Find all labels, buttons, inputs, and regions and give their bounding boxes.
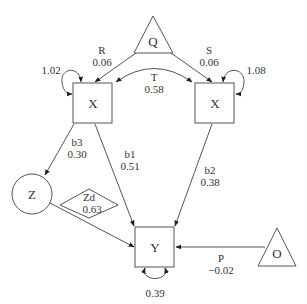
self-loop-x-left-value: 1.02 — [41, 64, 60, 76]
node-zd-value: 0.63 — [82, 203, 102, 215]
path-diagram: Q X X Z Zd 0.63 Y O R 0.06 S 0.06 T 0.58… — [0, 0, 307, 304]
node-o-label: O — [272, 246, 281, 261]
edge-b1-label: b1 — [125, 148, 136, 160]
node-x-right-label: X — [210, 96, 220, 111]
edge-b3-value: 0.30 — [67, 148, 87, 160]
edge-b2-label: b2 — [205, 164, 216, 176]
edge-b3-label: b3 — [72, 136, 84, 148]
edge-s-label: S — [206, 44, 212, 56]
edge-r-value: 0.06 — [92, 56, 112, 68]
edge-p-value: −0.02 — [208, 264, 233, 276]
node-x-left-label: X — [88, 96, 98, 111]
edge-s-value: 0.06 — [199, 56, 219, 68]
edge-b1-value: 0.51 — [120, 160, 139, 172]
edge-t-label: T — [151, 71, 158, 83]
node-z-label: Z — [28, 187, 36, 202]
self-loop-x-right-value: 1.08 — [246, 64, 266, 76]
self-loop-y — [144, 268, 165, 279]
edge-p-label: P — [218, 252, 224, 264]
edge-t-value: 0.58 — [144, 83, 164, 95]
edge-r-label: R — [98, 44, 106, 56]
node-y-label: Y — [150, 240, 160, 255]
edge-b2-value: 0.38 — [200, 176, 220, 188]
node-zd-label: Zd — [83, 191, 96, 203]
node-q-label: Q — [148, 34, 158, 49]
self-loop-y-value: 0.39 — [145, 287, 165, 299]
